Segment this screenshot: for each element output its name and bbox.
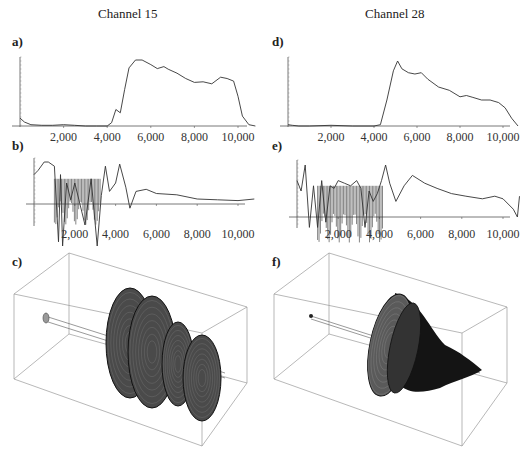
chart-c-3d [14, 253, 247, 446]
chart-a: 2,0004,0006,0008,00010,000 [12, 57, 255, 144]
data-line [20, 60, 255, 126]
x-tick-label: 2,000 [50, 130, 77, 144]
x-tick-label: 10,000 [487, 227, 520, 241]
charts-canvas: 2,0004,0006,0008,00010,0002,0004,0006,00… [0, 0, 520, 457]
x-tick-label: 10,000 [487, 130, 520, 144]
x-tick-label: 2,000 [318, 130, 345, 144]
x-tick-label: 4,000 [94, 130, 121, 144]
x-tick-label: 6,000 [404, 130, 431, 144]
chart-e: 2,0004,0006,0008,00010,000 [289, 160, 520, 242]
x-tick-label: 2,000 [61, 227, 88, 241]
x-tick-label: 6,000 [407, 227, 434, 241]
x-tick-label: 8,000 [181, 130, 208, 144]
x-tick-label: 8,000 [448, 227, 475, 241]
x-tick-label: 4,000 [102, 227, 129, 241]
x-tick-label: 6,000 [143, 227, 170, 241]
x-tick-label: 4,000 [361, 130, 388, 144]
x-tick-label: 8,000 [184, 227, 211, 241]
x-tick-label: 10,000 [222, 227, 255, 241]
chart-d: 2,0004,0006,0008,00010,000 [280, 57, 520, 144]
chart-f-3d [274, 253, 507, 446]
x-tick-label: 6,000 [137, 130, 164, 144]
data-line [288, 61, 518, 126]
x-tick-label: 8,000 [447, 130, 474, 144]
x-tick-label: 10,000 [222, 130, 255, 144]
chart-b: 2,0004,0006,0008,00010,000 [26, 158, 255, 246]
